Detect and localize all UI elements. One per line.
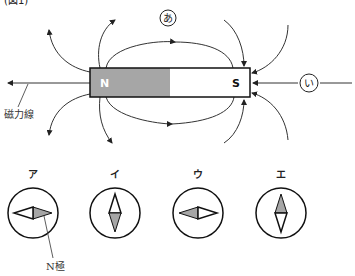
field-line-into-s-bottom-left: [224, 100, 244, 143]
compass-i: イ: [90, 169, 140, 238]
compass-i-label: イ: [110, 169, 120, 180]
field-line-label: 磁力線: [4, 108, 34, 120]
magnetic-field-diagram: (図1) N S あ い: [0, 0, 355, 276]
field-line-loop-bottom-s: [172, 97, 234, 124]
marker-i-label: い: [304, 78, 314, 89]
figure-caption: (図1): [4, 0, 28, 6]
north-pole-label: N: [100, 77, 109, 90]
compass-u-label: ウ: [193, 169, 203, 180]
field-line-into-s-top-right: [252, 25, 288, 73]
field-line-loop-top-s: [175, 42, 233, 68]
compass-a-label: ア: [28, 169, 38, 180]
field-line-loop-top-n: [106, 42, 175, 68]
north-pole-label: N極: [46, 260, 65, 272]
field-line-lower-left: [49, 94, 90, 135]
compass-e-label: エ: [276, 169, 286, 180]
marker-a: あ: [160, 10, 176, 26]
field-line-upper-left: [49, 30, 90, 72]
compass-u: ウ: [173, 169, 223, 238]
marker-a-label: あ: [163, 13, 173, 24]
field-line-loop-bottom-n: [106, 97, 172, 124]
field-line-upper-mid: [99, 20, 115, 68]
field-line-callout: 磁力線: [4, 84, 34, 120]
south-pole-label: S: [232, 77, 240, 90]
marker-i: い: [300, 74, 318, 92]
field-line-into-s-top-left: [224, 20, 244, 66]
compass-e: エ: [256, 169, 306, 238]
field-line-into-s-bottom-right: [252, 93, 288, 140]
compass-a: ア N極: [8, 169, 65, 272]
bar-magnet: N S: [90, 68, 250, 97]
